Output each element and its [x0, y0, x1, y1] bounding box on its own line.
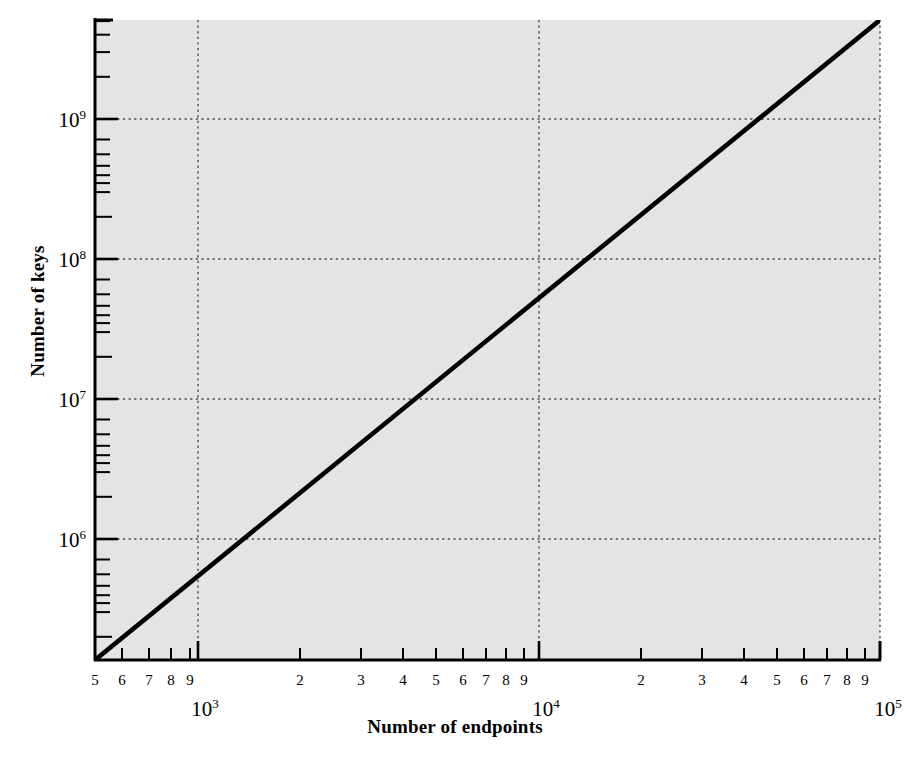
- x-minor-label-700: 7: [145, 672, 153, 688]
- x-minor-label-6000: 6: [459, 672, 467, 688]
- y-tick-label-1e9: 109: [59, 107, 87, 132]
- x-minor-label-800: 8: [167, 672, 175, 688]
- x-minor-label-50000: 5: [773, 672, 781, 688]
- x-minor-label-60000: 6: [800, 672, 808, 688]
- x-axis-minor-labels: 5 6 7 8 9 2 3 4 5 6 7 8 9 2 3 4 5 6 7 8 …: [91, 672, 869, 688]
- x-minor-label-5000: 5: [432, 672, 440, 688]
- y-axis-title: Number of keys: [27, 211, 49, 411]
- x-axis-title: Number of endpoints: [0, 716, 910, 738]
- x-minor-label-900: 9: [186, 672, 194, 688]
- y-tick-label-1e8: 108: [59, 247, 87, 272]
- x-minor-label-9000: 9: [520, 672, 528, 688]
- x-minor-label-3000: 3: [357, 672, 365, 688]
- x-minor-label-40000: 4: [740, 672, 748, 688]
- y-tick-label-1e7: 107: [59, 387, 87, 412]
- y-axis-tick-labels: 109 108 107 106: [59, 107, 87, 552]
- log-log-chart: 109 108 107 106 5 6 7 8 9 2 3 4 5 6 7: [0, 0, 910, 762]
- x-minor-label-2000: 2: [296, 672, 304, 688]
- x-minor-label-8000: 8: [502, 672, 510, 688]
- y-tick-label-1e6: 106: [59, 527, 87, 552]
- figure-container: 109 108 107 106 5 6 7 8 9 2 3 4 5 6 7: [0, 0, 910, 762]
- x-minor-label-4000: 4: [399, 672, 407, 688]
- x-minor-label-90000: 9: [861, 672, 869, 688]
- x-minor-label-500: 5: [91, 672, 99, 688]
- x-minor-label-20000: 2: [637, 672, 645, 688]
- x-minor-label-600: 6: [118, 672, 126, 688]
- x-minor-label-30000: 3: [698, 672, 706, 688]
- x-minor-label-70000: 7: [823, 672, 831, 688]
- x-minor-label-80000: 8: [843, 672, 851, 688]
- x-minor-label-7000: 7: [482, 672, 490, 688]
